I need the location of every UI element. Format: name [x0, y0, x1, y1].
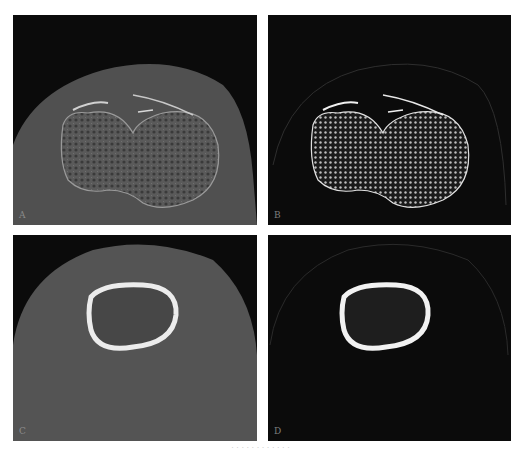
panel-c: C	[13, 235, 257, 441]
panel-a: A	[13, 15, 257, 225]
ct-femur-bone-window-image	[268, 235, 511, 441]
ct-knee-bone-window-image	[268, 15, 511, 225]
panel-d: D	[268, 235, 511, 441]
ct-knee-soft-tissue-image	[13, 15, 257, 225]
panel-label: A	[19, 210, 26, 220]
ct-femur-soft-tissue-image	[13, 235, 257, 441]
panel-label: C	[19, 426, 26, 436]
panel-label: D	[274, 426, 281, 436]
panel-b: B	[268, 15, 511, 225]
panel-label: B	[274, 210, 281, 220]
figure-caption: · · · · · · · · · · · ·	[0, 443, 521, 453]
